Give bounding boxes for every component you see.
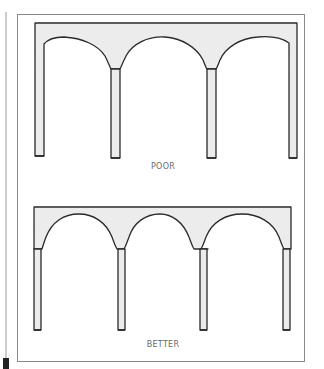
arcade-better-column-1 <box>34 249 41 330</box>
arcade-better-column-3 <box>200 249 207 330</box>
arcade-better-column-2 <box>118 249 125 330</box>
arcade-poor <box>35 23 297 158</box>
arcade-poor-column-2 <box>111 69 120 158</box>
arcade-better-column-4 <box>283 249 290 330</box>
arcade-poor-column-3 <box>207 69 216 158</box>
label-better: BETTER <box>147 340 180 349</box>
arcade-diagram <box>0 0 324 369</box>
arcade-poor-lintel <box>35 23 297 158</box>
label-poor: POOR <box>151 162 175 171</box>
arcade-better-lintel <box>34 207 291 249</box>
marker-square <box>3 358 9 369</box>
arcade-better <box>34 207 291 330</box>
figure-frame <box>18 15 305 362</box>
